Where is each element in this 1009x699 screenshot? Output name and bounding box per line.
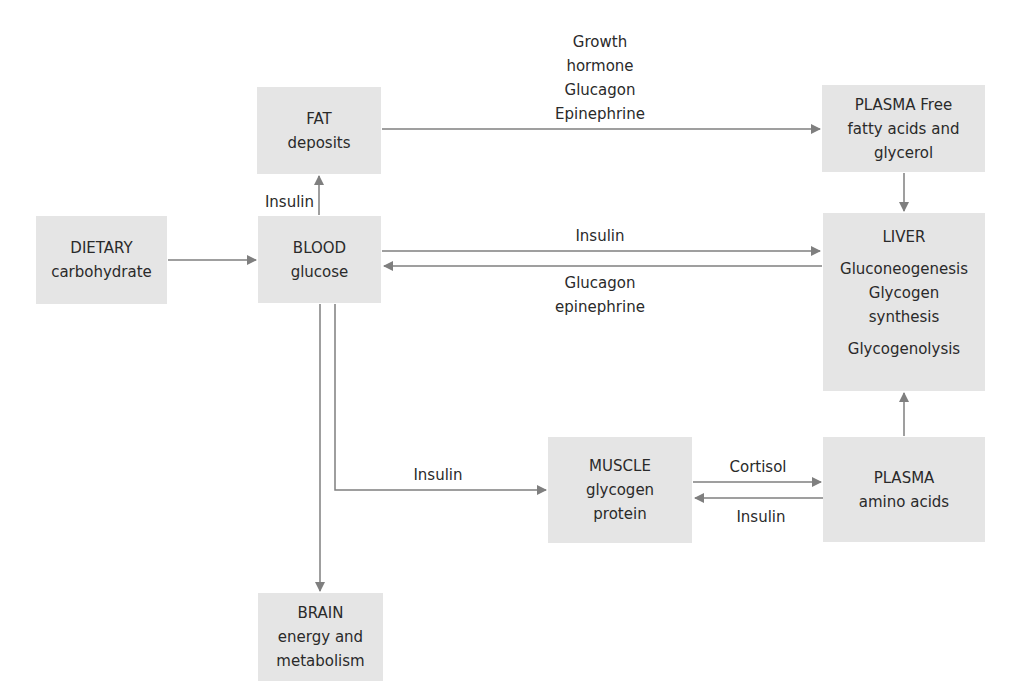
edge-label-text: Insulin bbox=[736, 508, 785, 526]
label-muscle-to-plasma-aa: Cortisol bbox=[718, 455, 798, 479]
node-subtitle: glucose bbox=[291, 260, 349, 284]
node-blood-glucose: BLOOD glucose bbox=[258, 216, 381, 303]
edge-label-text: Cortisol bbox=[729, 458, 786, 476]
node-subtitle-1: energy and bbox=[278, 625, 363, 649]
label-fat-to-plasma-ffa: Growth hormone Glucagon Epinephrine bbox=[530, 30, 670, 126]
edge-label-line: hormone bbox=[530, 54, 670, 78]
label-blood-to-liver: Insulin bbox=[560, 224, 640, 248]
label-liver-to-blood: Glucagon epinephrine bbox=[530, 271, 670, 319]
label-blood-to-fat: Insulin bbox=[250, 190, 314, 214]
node-title: DIETARY bbox=[70, 236, 132, 260]
node-title: PLASMA Free bbox=[855, 93, 952, 117]
liver-process-glycogenolysis: Glycogenolysis bbox=[848, 337, 960, 361]
node-title: LIVER bbox=[883, 225, 926, 249]
node-title: MUSCLE bbox=[589, 454, 651, 478]
edge-label-text: Insulin bbox=[575, 227, 624, 245]
edge-label-line: Growth bbox=[530, 30, 670, 54]
node-subtitle: deposits bbox=[287, 131, 350, 155]
node-title: BRAIN bbox=[297, 601, 343, 625]
edge-label-line: Epinephrine bbox=[530, 102, 670, 126]
node-brain: BRAIN energy and metabolism bbox=[258, 593, 383, 681]
edge-label-text: Insulin bbox=[265, 193, 314, 211]
node-subtitle-2: metabolism bbox=[276, 649, 364, 673]
node-liver: LIVER Gluconeogenesis Glycogen synthesis… bbox=[823, 213, 985, 391]
node-subtitle: carbohydrate bbox=[51, 260, 152, 284]
node-title: FAT bbox=[306, 107, 332, 131]
node-subtitle-1: glycogen bbox=[586, 478, 654, 502]
node-subtitle-1: fatty acids and bbox=[848, 117, 960, 141]
node-subtitle: amino acids bbox=[859, 490, 949, 514]
node-muscle: MUSCLE glycogen protein bbox=[548, 437, 692, 543]
node-fat-deposits: FAT deposits bbox=[257, 87, 381, 174]
edge-label-line: epinephrine bbox=[530, 295, 670, 319]
node-subtitle-2: protein bbox=[593, 502, 646, 526]
node-title: BLOOD bbox=[293, 236, 346, 260]
liver-process-gluconeogenesis: Gluconeogenesis bbox=[840, 257, 968, 281]
label-plasma-aa-to-muscle: Insulin bbox=[721, 505, 801, 529]
edge-label-text: Insulin bbox=[413, 466, 462, 484]
liver-process-glycogen: Glycogen bbox=[869, 281, 939, 305]
edge-label-line: Glucagon bbox=[530, 78, 670, 102]
node-subtitle-2: glycerol bbox=[874, 141, 933, 165]
node-title: PLASMA bbox=[874, 466, 935, 490]
node-plasma-free-fatty-acids: PLASMA Free fatty acids and glycerol bbox=[822, 85, 985, 172]
liver-process-synthesis: synthesis bbox=[869, 305, 940, 329]
label-blood-to-muscle: Insulin bbox=[398, 463, 478, 487]
node-dietary-carbohydrate: DIETARY carbohydrate bbox=[36, 216, 167, 304]
edge-label-line: Glucagon bbox=[530, 271, 670, 295]
node-plasma-amino-acids: PLASMA amino acids bbox=[823, 437, 985, 542]
